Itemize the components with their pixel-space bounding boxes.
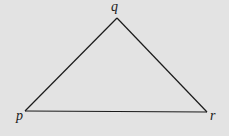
edge-pq (25, 18, 117, 111)
vertex-label-r: r (210, 109, 215, 123)
vertex-label-q: q (111, 0, 118, 14)
vertex-label-p: p (16, 109, 23, 123)
triangle-svg (0, 0, 229, 136)
edge-rp (25, 111, 207, 112)
edge-qr (117, 18, 207, 112)
triangle-diagram: q p r (0, 0, 229, 136)
